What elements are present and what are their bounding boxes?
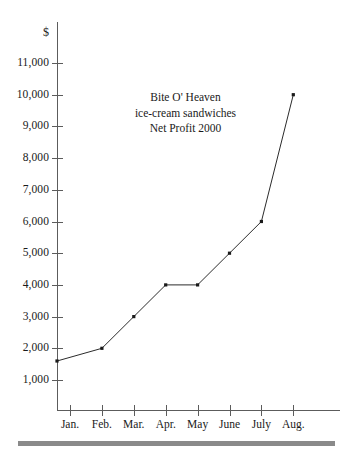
series-data-point [260, 220, 263, 223]
series-markers [55, 93, 295, 363]
series-polyline [57, 95, 293, 361]
series-data-point [55, 359, 58, 362]
series-data-point [164, 283, 167, 286]
series-data-point [196, 283, 199, 286]
series-data-point [292, 93, 295, 96]
data-series-line [0, 0, 353, 455]
bottom-rule [18, 441, 335, 446]
series-data-point [132, 315, 135, 318]
series-data-point [100, 347, 103, 350]
series-data-point [228, 252, 231, 255]
chart-figure: $ 11,00010,0009,0008,0007,0006,0005,0004… [0, 0, 353, 455]
